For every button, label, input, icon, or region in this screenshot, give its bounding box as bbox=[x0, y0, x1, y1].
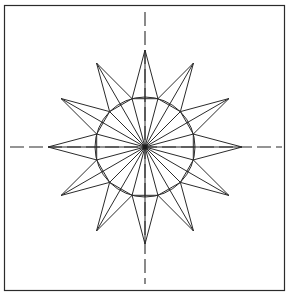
center-point-dot bbox=[143, 145, 147, 149]
star-polygon-diagram bbox=[0, 0, 289, 298]
figure-container bbox=[0, 0, 289, 298]
